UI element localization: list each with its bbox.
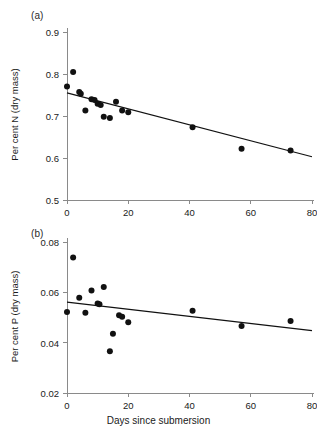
x-tick-label: 40: [184, 400, 195, 411]
y-tick-label: 0.5: [0, 195, 59, 206]
x-tick-label: 20: [123, 400, 134, 411]
y-tick-label: 0.06: [0, 287, 59, 298]
chart-panel-b: (b) Per cent P (dry mass) Days since sub…: [0, 222, 317, 444]
chart-panel-a: (a) Per cent N (dry mass) 0.50.60.70.80.…: [0, 0, 317, 222]
x-tick-label: 80: [307, 400, 317, 411]
y-tick-label: 0.8: [0, 69, 59, 80]
x-tick-label: 0: [64, 400, 69, 411]
y-tick-label: 0.04: [0, 337, 59, 348]
x-tick-label: 60: [245, 400, 256, 411]
x-tick-label: 20: [123, 207, 134, 218]
x-tick-label: 40: [184, 207, 195, 218]
y-tick-label: 0.7: [0, 111, 59, 122]
y-tick-label: 0.9: [0, 27, 59, 38]
x-axis-title: Days since submersion: [0, 415, 317, 426]
figure: (a) Per cent N (dry mass) 0.50.60.70.80.…: [0, 0, 317, 444]
x-tick-label: 60: [245, 207, 256, 218]
y-tick-label: 0.08: [0, 237, 59, 248]
plot-area-b: [0, 222, 317, 444]
x-tick-label: 0: [64, 207, 69, 218]
x-tick-label: 80: [307, 207, 317, 218]
y-tick-label: 0.6: [0, 153, 59, 164]
y-tick-label: 0.02: [0, 388, 59, 399]
